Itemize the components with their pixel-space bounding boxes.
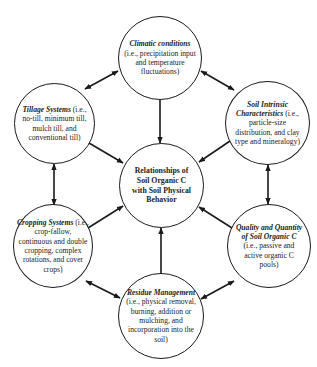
node-title: Cropping Systems [17, 218, 73, 227]
node-detail: (i.e., precipitation input and temperatu… [124, 49, 196, 77]
arrow-residue-cropping [86, 281, 120, 298]
node-center-relationships: Relationships of Soil Organic C with Soi… [119, 143, 204, 228]
node-title: Soil Intrinsic Characteristics [236, 100, 288, 118]
arrow-climatic-soil-intrinsic [201, 71, 234, 90]
node-title: Residue Management [127, 288, 195, 297]
node-text: Soil Intrinsic Characteristics (i.e., pa… [226, 100, 309, 146]
node-text: Tillage Systems (i.e., no-till, minimum … [15, 105, 94, 142]
node-text: Quality and Quantity of Soil Organic C (… [228, 223, 310, 269]
node-detail: (i.e., physical removal, burning, additi… [126, 297, 196, 343]
soil-organic-c-diagram: Climatic conditions (i.e., precipitation… [0, 0, 317, 367]
node-text: Residue Management (i.e., physical remov… [119, 288, 203, 344]
arrow-tillage-to-center [89, 143, 123, 163]
node-climatic-conditions: Climatic conditions (i.e., precipitation… [118, 16, 202, 100]
node-text: Relationships of Soil Organic C with Soi… [120, 166, 203, 204]
node-tillage-systems: Tillage Systems (i.e., no-till, minimum … [14, 83, 95, 164]
arrow-tillage-climatic [85, 71, 118, 89]
node-text: Climatic conditions (i.e., precipitation… [119, 39, 201, 76]
node-quality-quantity-soil-organic-c: Quality and Quantity of Soil Organic C (… [227, 204, 311, 288]
arrow-cropping-to-center [88, 206, 123, 228]
node-soil-intrinsic-characteristics: Soil Intrinsic Characteristics (i.e., pa… [225, 81, 310, 165]
node-title: Climatic conditions [130, 39, 191, 48]
node-detail: (i.e., passive and active organic C pool… [244, 241, 295, 269]
node-title: Quality and Quantity of Soil Organic C [236, 223, 302, 241]
node-text: Cropping Systems (i.e., crop-fallow, con… [14, 218, 92, 274]
node-title: Tillage Systems [22, 105, 70, 114]
node-cropping-systems: Cropping Systems (i.e., crop-fallow, con… [13, 204, 93, 288]
node-residue-management: Residue Management (i.e., physical remov… [118, 273, 204, 359]
arrow-quality-residue [201, 281, 234, 299]
center-title: Relationships of Soil Organic C with Soi… [132, 166, 191, 204]
